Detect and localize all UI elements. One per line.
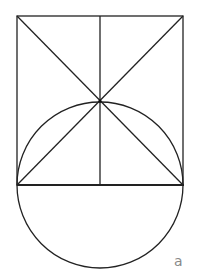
geometry-diagram: a [0,0,201,269]
figure-label: a [174,253,183,269]
intersection-point [98,99,101,102]
